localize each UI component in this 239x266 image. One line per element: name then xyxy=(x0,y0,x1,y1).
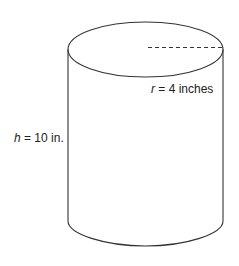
cylinder-bottom-curve xyxy=(68,221,223,246)
radius-label: r = 4 inches xyxy=(151,82,213,96)
cylinder-diagram: r = 4 inches h = 10 in. xyxy=(0,0,239,266)
height-label: h = 10 in. xyxy=(14,131,64,145)
cylinder-top-ellipse xyxy=(68,22,223,77)
